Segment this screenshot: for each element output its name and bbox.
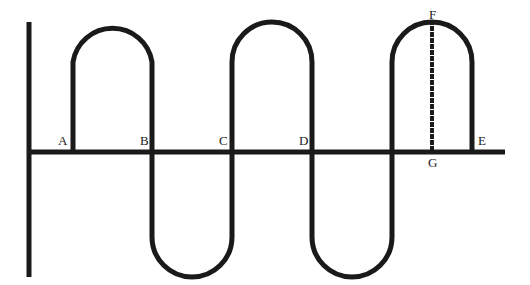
point-label-a: A — [58, 134, 67, 147]
point-label-g: G — [428, 156, 437, 169]
point-label-c: C — [219, 134, 228, 147]
point-label-e: E — [478, 134, 486, 147]
point-label-d: D — [299, 134, 308, 147]
curve-diagram-svg — [0, 0, 530, 285]
figure-canvas: ABCDEFG — [0, 0, 530, 285]
point-label-b: B — [140, 134, 149, 147]
point-label-f: F — [429, 8, 436, 21]
